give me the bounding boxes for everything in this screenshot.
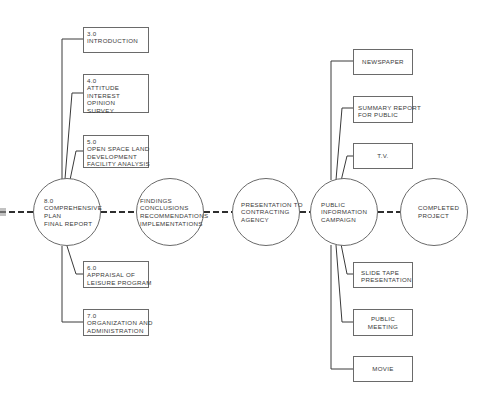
circle-line: PUBLIC (321, 201, 345, 209)
circle-comprehensive-plan: 8.0 COMPREHENSIVE PLAN FINAL REPORT (33, 178, 101, 246)
box-3-line: 3.0 (87, 30, 145, 37)
box-5-line: OPEN SPACE LAND (87, 145, 145, 152)
circle-line: CONCLUSIONS (140, 204, 189, 212)
box-7-line: 7.0 (87, 312, 145, 319)
circle-presentation: PRESENTATION TO CONTRACTING AGENCY (232, 178, 300, 246)
circle-line: FINAL REPORT (44, 220, 92, 228)
box-slide-line: SLIDE TAPE (361, 269, 409, 276)
box-4-line: INTEREST (87, 92, 145, 99)
box-5-open-space: 5.0 OPEN SPACE LAND DEVELOPMENT FACILITY… (83, 135, 149, 168)
circle-completed-project: COMPLETED PROJECT (400, 178, 468, 246)
connector-summary (336, 108, 353, 180)
box-4-line: ATTITUDE (87, 84, 145, 91)
box-movie-line: MOVIE (372, 365, 393, 372)
box-slide-tape: SLIDE TAPE PRESENTATION (353, 262, 413, 288)
circle-line: AGENCY (241, 216, 269, 224)
box-tv-line: T.V. (377, 152, 388, 159)
circle-line: PRESENTATION TO (241, 201, 303, 209)
box-newspaper-line: NEWSPAPER (362, 58, 404, 65)
connector-6 (67, 246, 83, 274)
box-7-line: ORGANIZATION AND (87, 319, 145, 326)
circle-line: CAMPAIGN (321, 216, 356, 224)
box-slide-line: PRESENTATION (361, 276, 409, 283)
circle-line: COMPLETED (418, 204, 459, 212)
box-7-organization: 7.0 ORGANIZATION AND ADMINISTRATION (83, 309, 149, 336)
connector-7 (62, 246, 83, 322)
box-4-line: 4.0 (87, 77, 145, 84)
box-movie: MOVIE (353, 356, 413, 382)
circle-findings: FINDINGS CONCLUSIONS RECOMMENDATIONS IMP… (136, 178, 204, 246)
circle-line: PLAN (44, 212, 61, 220)
circle-line: FINDINGS (140, 197, 172, 205)
box-6-line: LEISURE PROGRAM (87, 279, 145, 286)
box-4-line: OPINION (87, 99, 145, 106)
box-6-appraisal: 6.0 APPRAISAL OF LEISURE PROGRAM (83, 261, 149, 288)
circle-line: IMPLEMENTATIONS (140, 220, 203, 228)
box-7-line: ADMINISTRATION (87, 327, 145, 334)
box-4-line: SURVEY (87, 107, 145, 114)
box-meeting-line: PUBLIC (368, 315, 398, 322)
connector-slide (341, 244, 353, 274)
connector-3 (62, 39, 83, 179)
box-4-attitude-survey: 4.0 ATTITUDE INTEREST OPINION SURVEY (83, 74, 149, 113)
connector-movie (331, 245, 353, 369)
box-summary-report: SUMMARY REPORT FOR PUBLIC (353, 96, 413, 123)
box-3-introduction: 3.0 INTRODUCTION (83, 27, 149, 53)
box-6-line: APPRAISAL OF (87, 271, 145, 278)
connector-meeting (336, 245, 353, 322)
box-5-line: FACILITY ANALYSIS (87, 160, 145, 167)
connector-5 (70, 151, 83, 180)
box-5-line: 5.0 (87, 138, 145, 145)
circle-line: COMPREHENSIVE (44, 204, 102, 212)
box-summary-line: SUMMARY REPORT (358, 104, 409, 111)
circle-line: INFORMATION (321, 208, 367, 216)
box-meeting-line: MEETING (368, 323, 398, 330)
circle-public-information: PUBLIC INFORMATION CAMPAIGN (310, 178, 378, 246)
connector-newspaper (331, 61, 353, 180)
circle-line: PROJECT (418, 212, 449, 220)
box-5-line: DEVELOPMENT (87, 153, 145, 160)
box-3-line: INTRODUCTION (87, 37, 145, 44)
circle-line: CONTRACTING (241, 208, 290, 216)
box-newspaper: NEWSPAPER (353, 49, 413, 75)
box-tv: T.V. (353, 143, 413, 169)
box-6-line: 6.0 (87, 264, 145, 271)
circle-line: 8.0 (44, 197, 54, 205)
box-summary-line: FOR PUBLIC (358, 111, 409, 118)
circle-line: RECOMMENDATIONS (140, 212, 208, 220)
box-public-meeting: PUBLIC MEETING (353, 309, 413, 336)
connector-4 (65, 93, 83, 179)
